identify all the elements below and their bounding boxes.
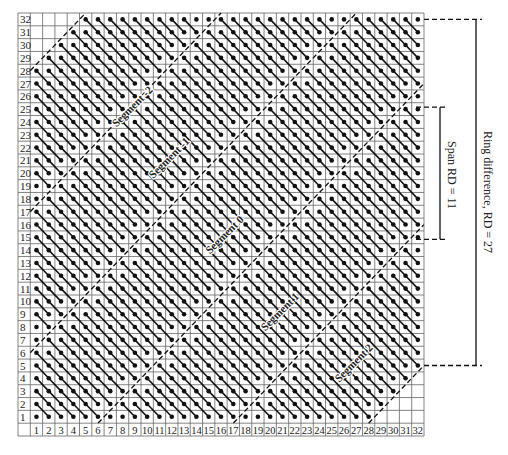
sinogram-dot bbox=[145, 158, 150, 163]
sinogram-dot bbox=[379, 158, 384, 163]
sinogram-dot bbox=[133, 273, 138, 278]
sinogram-dot bbox=[71, 107, 76, 112]
sinogram-dot bbox=[120, 312, 125, 317]
sinogram-dot bbox=[280, 222, 285, 227]
sinogram-dot bbox=[305, 94, 310, 99]
sinogram-dot bbox=[145, 350, 150, 355]
sinogram-dot bbox=[342, 171, 347, 176]
sinogram-dot bbox=[157, 286, 162, 291]
sinogram-dot bbox=[133, 132, 138, 137]
sinogram-dot bbox=[71, 312, 76, 317]
sinogram-dot bbox=[59, 56, 64, 61]
sinogram-dot bbox=[182, 350, 187, 355]
sinogram-dot bbox=[83, 376, 88, 381]
sinogram-dot bbox=[305, 68, 310, 73]
sinogram-dot bbox=[342, 56, 347, 61]
sinogram-dot bbox=[416, 145, 421, 150]
sinogram-dot bbox=[145, 184, 150, 189]
sinogram-dot bbox=[34, 402, 39, 407]
sinogram-dot bbox=[46, 120, 51, 125]
sinogram-dot bbox=[108, 350, 113, 355]
sinogram-dot bbox=[108, 184, 113, 189]
sinogram-dot bbox=[403, 350, 408, 355]
sinogram-dot bbox=[194, 325, 199, 330]
sinogram-dot bbox=[120, 389, 125, 394]
sinogram-dot bbox=[157, 43, 162, 48]
sinogram-dot bbox=[219, 325, 224, 330]
sinogram-dot bbox=[96, 94, 101, 99]
sinogram-dot bbox=[354, 56, 359, 61]
sinogram-dot bbox=[169, 209, 174, 214]
sinogram-dot bbox=[231, 325, 236, 330]
sinogram-dot bbox=[416, 68, 421, 73]
sinogram-dot bbox=[219, 158, 224, 163]
sinogram-dot bbox=[108, 312, 113, 317]
sinogram-dot bbox=[317, 197, 322, 202]
row-label: 11 bbox=[20, 283, 31, 295]
sinogram-dot bbox=[83, 402, 88, 407]
sinogram-dot bbox=[231, 120, 236, 125]
sinogram-dot bbox=[194, 402, 199, 407]
row-label: 20 bbox=[20, 167, 32, 179]
sinogram-dot bbox=[231, 94, 236, 99]
sinogram-dot bbox=[256, 286, 261, 291]
sinogram-dot bbox=[329, 312, 334, 317]
sinogram-dot bbox=[256, 312, 261, 317]
sinogram-dot bbox=[169, 107, 174, 112]
sinogram-dot bbox=[108, 158, 113, 163]
sinogram-dot bbox=[342, 209, 347, 214]
sinogram-dot bbox=[46, 350, 51, 355]
sinogram-dot bbox=[293, 286, 298, 291]
sinogram-dot bbox=[83, 30, 88, 35]
sinogram-dot bbox=[293, 248, 298, 253]
sinogram-dot bbox=[120, 299, 125, 304]
sinogram-dot bbox=[231, 132, 236, 137]
sinogram-dot bbox=[305, 312, 310, 317]
sinogram-dot bbox=[182, 376, 187, 381]
sinogram-dot bbox=[169, 197, 174, 202]
sinogram-dot bbox=[71, 338, 76, 343]
sinogram-dot bbox=[329, 248, 334, 253]
sinogram-dot bbox=[403, 273, 408, 278]
sinogram-dot bbox=[194, 197, 199, 202]
sinogram-dot bbox=[379, 94, 384, 99]
sinogram-dot bbox=[268, 107, 273, 112]
sinogram-dot bbox=[280, 261, 285, 266]
sinogram-dot bbox=[169, 30, 174, 35]
sinogram-dot bbox=[379, 248, 384, 253]
sinogram-dot bbox=[133, 68, 138, 73]
sinogram-dot bbox=[157, 132, 162, 137]
sinogram-dot bbox=[194, 350, 199, 355]
sinogram-dot bbox=[268, 184, 273, 189]
sinogram-dot bbox=[206, 30, 211, 35]
sinogram-dot bbox=[206, 312, 211, 317]
sinogram-dot bbox=[96, 184, 101, 189]
sinogram-dot bbox=[219, 17, 224, 22]
sinogram-dot bbox=[108, 132, 113, 137]
sinogram-dot bbox=[366, 325, 371, 330]
sinogram-dot bbox=[46, 402, 51, 407]
sinogram-dot bbox=[120, 286, 125, 291]
sinogram-dot bbox=[96, 68, 101, 73]
sinogram-dot bbox=[145, 389, 150, 394]
sinogram-dot bbox=[293, 68, 298, 73]
sinogram-dot bbox=[231, 299, 236, 304]
sinogram-dot bbox=[59, 402, 64, 407]
sinogram-dot bbox=[293, 376, 298, 381]
sinogram-dot bbox=[256, 107, 261, 112]
sinogram-dot bbox=[182, 158, 187, 163]
sinogram-dot bbox=[59, 197, 64, 202]
sinogram-dot bbox=[34, 171, 39, 176]
sinogram-dot bbox=[219, 402, 224, 407]
sinogram-dot bbox=[145, 30, 150, 35]
span-rd-label: Span RD = 11 bbox=[445, 141, 459, 209]
sinogram-dot bbox=[256, 30, 261, 35]
sinogram-dot bbox=[145, 376, 150, 381]
sinogram-dot bbox=[317, 81, 322, 86]
sinogram-dot bbox=[256, 376, 261, 381]
sinogram-dot bbox=[145, 299, 150, 304]
sinogram-dot bbox=[231, 286, 236, 291]
row-label: 24 bbox=[20, 116, 32, 128]
sinogram-dot bbox=[133, 402, 138, 407]
sinogram-dot bbox=[71, 273, 76, 278]
